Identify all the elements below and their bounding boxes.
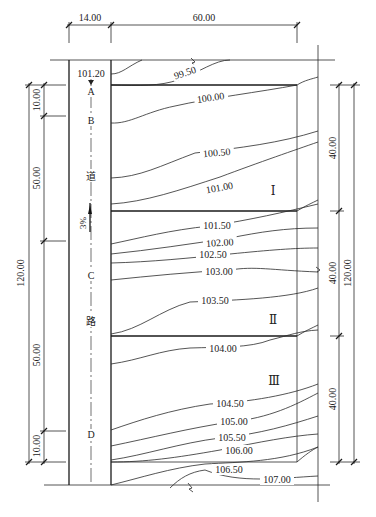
zone-label-2: Ⅱ: [269, 313, 277, 327]
dim-left-total: 120.00: [15, 259, 26, 287]
dim-right-seg-3: 40.00: [327, 388, 338, 411]
dim-road-width: 14.00: [79, 12, 102, 23]
dim-left-seg-2: 50.00: [31, 167, 42, 190]
station-c: C: [88, 270, 95, 281]
station-a: A: [87, 86, 95, 97]
contour-label: 105.00: [220, 416, 248, 427]
contour-label: 106.00: [225, 445, 253, 456]
left-dimensions: 120.00 10.00 50.00 50.00 10.00: [15, 82, 66, 465]
top-dimension: 14.00 60.00: [66, 12, 300, 43]
right-dimensions: 40.00 40.00 40.00 120.00: [327, 82, 360, 465]
road-slope: 3%: [78, 217, 88, 230]
contour-label: 102.50: [199, 249, 227, 260]
contour-label: 100.00: [196, 90, 225, 105]
zone-label-1: Ⅰ: [271, 184, 276, 198]
site-grading-plan: 14.00 60.00 101.20: [0, 0, 376, 517]
dim-right-seg-2: 40.00: [327, 262, 338, 285]
road-start-elevation: 101.20: [77, 68, 105, 79]
contour-label: 100.50: [203, 146, 231, 159]
zone-label-3: Ⅲ: [268, 374, 280, 388]
contour-label: 103.50: [201, 295, 229, 306]
contour-label: 99.50: [173, 64, 198, 81]
contour-label: 104.00: [209, 343, 237, 354]
break-mark-bottom: [188, 483, 193, 492]
contour-label: 104.50: [216, 398, 244, 409]
contour-label: 102.00: [206, 236, 234, 249]
contour-labels: 99.50 100.00 100.50 101.00 101.50 102.00…: [171, 63, 294, 485]
road-name-char-2: 路: [86, 315, 96, 327]
contour-label: 107.00: [263, 474, 291, 485]
contour-label: 101.00: [205, 180, 234, 196]
dim-right-total: 120.00: [342, 259, 353, 287]
dim-right-seg-1: 40.00: [327, 137, 338, 160]
contour-label: 103.00: [205, 266, 233, 277]
road-name-char-1: 道: [86, 170, 96, 182]
contour-label: 105.50: [218, 432, 246, 443]
station-b: B: [88, 115, 95, 126]
dim-left-seg-3: 50.00: [31, 344, 42, 367]
road-strip: 101.20 A B C D 道 路 3%: [69, 60, 111, 485]
dim-left-seg-4: 10.00: [31, 435, 42, 458]
dim-site-width: 60.00: [193, 12, 216, 23]
elevation-arrow-icon: [88, 80, 94, 85]
slope-arrow-icon: [88, 205, 92, 214]
contour-label: 106.50: [215, 464, 243, 475]
dim-left-seg-1: 10.00: [31, 89, 42, 112]
station-d: D: [87, 429, 94, 440]
contour-label: 101.50: [203, 220, 231, 231]
